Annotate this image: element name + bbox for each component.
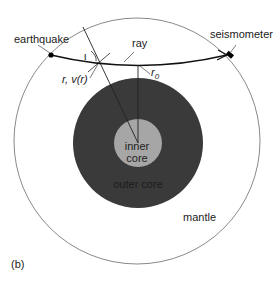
seismometer-label: seismometer	[210, 28, 273, 40]
radius-velocity-label: r, v(r)	[62, 73, 88, 85]
earthquake-label: earthquake	[14, 33, 69, 45]
turning-radius-subscript: 0	[155, 72, 160, 81]
earth-cross-section-diagram: earthquake seismometer ray ι r, v(r) r0 …	[0, 0, 278, 285]
ray-label: ray	[132, 37, 148, 49]
seismometer-leader	[230, 45, 236, 53]
earthquake-marker	[48, 52, 53, 57]
earthquake-leader	[38, 45, 50, 53]
panel-label: (b)	[11, 258, 24, 270]
outer-core-label: outer core	[113, 178, 163, 190]
mantle-label: mantle	[183, 211, 216, 223]
inner-core-label-line2: core	[126, 152, 147, 164]
inner-core-label-line1: inner	[125, 140, 150, 152]
